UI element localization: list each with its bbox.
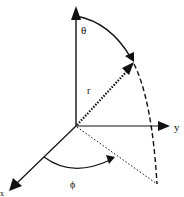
xy-projection-line [77, 127, 157, 184]
phi-arc [44, 155, 115, 168]
theta-label: θ [81, 24, 86, 36]
y-axis-arrowhead-icon [158, 121, 170, 131]
x-axis [9, 126, 76, 191]
r-label: r [87, 85, 91, 96]
z-axis-arrowhead-icon [71, 6, 81, 20]
x-axis-label: x [0, 189, 4, 197]
phi-arc-arrowhead-icon [106, 155, 115, 164]
dashed-meridian-arc [134, 64, 157, 184]
y-axis [76, 121, 170, 131]
theta-arc [76, 16, 134, 62]
phi-label: ϕ [70, 179, 75, 190]
spherical-coordinates-diagram: θ r y ϕ x [0, 0, 184, 197]
theta-arc-arrowhead-icon [125, 52, 134, 62]
r-vector [77, 62, 134, 125]
y-axis-label: y [174, 121, 180, 133]
z-axis [71, 6, 81, 126]
